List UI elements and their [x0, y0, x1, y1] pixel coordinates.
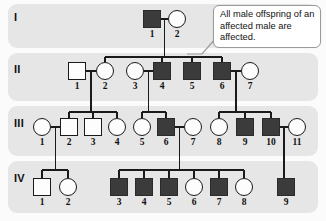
individual-id-iii-5: 5	[133, 137, 151, 147]
individual-iii-3-male-unaffected[interactable]	[84, 118, 102, 136]
individual-i-1-male-affected[interactable]	[143, 10, 161, 28]
individual-iv-8-female-unaffected[interactable]	[235, 178, 253, 196]
individual-id-iv-2: 2	[59, 197, 77, 207]
individual-id-ii-2: 2	[96, 81, 114, 91]
individual-id-iii-10: 10	[262, 137, 280, 147]
individual-id-iv-3: 3	[110, 197, 128, 207]
individual-ii-7-female-unaffected[interactable]	[241, 62, 259, 80]
individual-id-ii-1: 1	[68, 81, 86, 91]
callout-annotation: All male offspring of an affected male a…	[213, 5, 321, 48]
individual-iii-7-female-unaffected[interactable]	[184, 118, 202, 136]
individual-ii-5-male-affected[interactable]	[183, 62, 201, 80]
individual-id-ii-3: 3	[126, 81, 144, 91]
individual-id-iii-4: 4	[108, 137, 126, 147]
individual-id-iii-6: 6	[157, 137, 175, 147]
individual-id-iii-1: 1	[33, 137, 51, 147]
individual-iv-9-male-affected[interactable]	[277, 178, 295, 196]
individual-id-ii-6: 6	[213, 81, 231, 91]
individual-id-iv-5: 5	[160, 197, 178, 207]
individual-id-iii-7: 7	[184, 137, 202, 147]
individual-ii-1-male-unaffected[interactable]	[68, 62, 86, 80]
individual-iii-11-female-unaffected[interactable]	[288, 118, 306, 136]
individual-iv-4-male-affected[interactable]	[135, 178, 153, 196]
individual-iv-3-male-affected[interactable]	[110, 178, 128, 196]
individual-iii-9-male-affected[interactable]	[236, 118, 254, 136]
individual-iii-4-female-unaffected[interactable]	[108, 118, 126, 136]
individual-iii-5-female-unaffected[interactable]	[133, 118, 151, 136]
individual-id-iv-7: 7	[210, 197, 228, 207]
pedigree-chart: I II III IV	[0, 0, 326, 221]
individual-iv-1-male-unaffected[interactable]	[33, 178, 51, 196]
individual-id-iv-6: 6	[185, 197, 203, 207]
individual-iii-8-female-unaffected[interactable]	[210, 118, 228, 136]
individual-id-ii-5: 5	[183, 81, 201, 91]
individual-iii-2-male-unaffected[interactable]	[60, 118, 78, 136]
individual-iii-1-female-unaffected[interactable]	[33, 118, 51, 136]
individual-id-iv-8: 8	[235, 197, 253, 207]
individual-id-iv-9: 9	[277, 197, 295, 207]
individual-id-iii-8: 8	[210, 137, 228, 147]
individual-id-ii-4: 4	[153, 81, 171, 91]
individual-id-iii-9: 9	[236, 137, 254, 147]
individual-ii-3-female-unaffected[interactable]	[126, 62, 144, 80]
individual-id-iii-3: 3	[84, 137, 102, 147]
individual-iv-6-female-unaffected[interactable]	[185, 178, 203, 196]
individual-iv-2-female-unaffected[interactable]	[59, 178, 77, 196]
individual-iii-10-male-affected[interactable]	[262, 118, 280, 136]
individual-id-iv-1: 1	[33, 197, 51, 207]
individual-id-iii-11: 11	[288, 137, 306, 147]
individual-id-iii-2: 2	[60, 137, 78, 147]
individual-ii-6-male-affected[interactable]	[213, 62, 231, 80]
individual-iv-7-male-affected[interactable]	[210, 178, 228, 196]
individual-iii-6-male-affected[interactable]	[157, 118, 175, 136]
callout-text: All male offspring of an affected male a…	[220, 9, 314, 42]
individual-id-i-1: 1	[143, 29, 161, 39]
individual-i-2-female-unaffected[interactable]	[168, 10, 186, 28]
individual-id-iv-4: 4	[135, 197, 153, 207]
individual-id-i-2: 2	[168, 29, 186, 39]
individual-ii-2-female-unaffected[interactable]	[96, 62, 114, 80]
individual-ii-4-male-affected[interactable]	[153, 62, 171, 80]
individual-id-ii-7: 7	[241, 81, 259, 91]
individual-iv-5-male-affected[interactable]	[160, 178, 178, 196]
